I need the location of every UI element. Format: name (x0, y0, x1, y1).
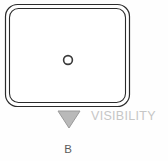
visibility-label: VISIBILITY (91, 109, 156, 124)
center-circle-marker (64, 56, 73, 65)
figure-panel-b: VISIBILITY B (0, 0, 168, 161)
figure-caption: B (0, 142, 136, 156)
figure-drawing (0, 0, 168, 161)
visibility-triangle-icon (58, 111, 80, 128)
